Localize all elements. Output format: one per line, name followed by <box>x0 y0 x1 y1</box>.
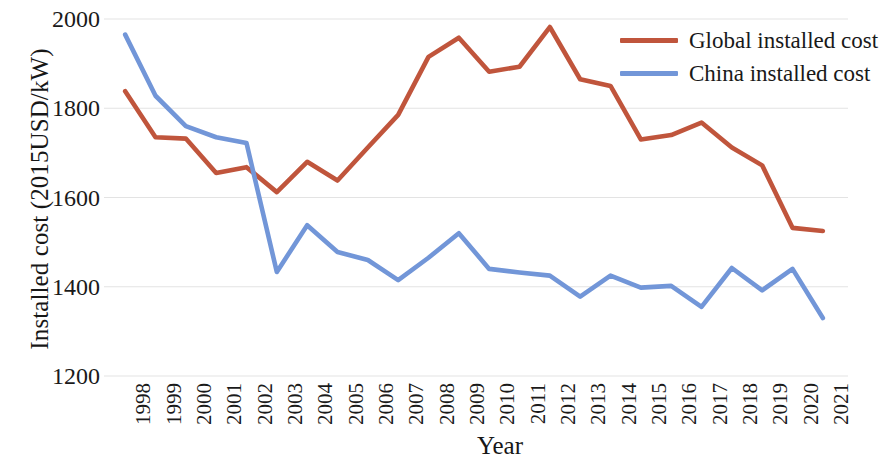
y-tick-label: 1600 <box>26 186 100 210</box>
legend-color-swatch <box>620 38 678 43</box>
legend-item-label: Global installed cost <box>689 29 878 52</box>
legend-item[interactable]: China installed cost <box>620 57 860 90</box>
y-tick-label: 1800 <box>26 96 100 120</box>
y-tick-label: 1200 <box>26 364 100 388</box>
legend-item-label: China installed cost <box>689 62 870 85</box>
x-axis-title: Year <box>0 432 883 460</box>
chart-legend: Global installed costChina installed cos… <box>620 24 860 90</box>
y-tick-label: 2000 <box>26 7 100 31</box>
legend-item[interactable]: Global installed cost <box>620 24 860 57</box>
y-tick-label: 1400 <box>26 275 100 299</box>
legend-color-swatch <box>620 71 678 76</box>
y-axis-tick-labels: 20001800160014001200 <box>26 0 100 400</box>
